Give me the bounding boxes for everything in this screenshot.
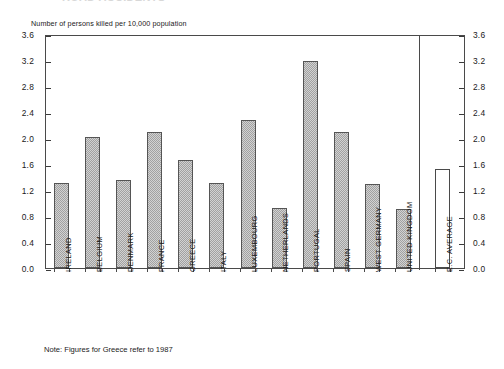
y-axis-label-right: 3.2: [473, 56, 504, 66]
y-axis-label-right: 0.0: [473, 264, 504, 274]
y-axis-label-left: 1.2: [0, 186, 34, 196]
y-axis-label-left: 0.8: [0, 212, 34, 222]
x-axis-label-greece: GREECE: [188, 238, 197, 272]
y-axis-label-right: 1.6: [473, 160, 504, 170]
x-axis-label-denmark: DENMARK: [126, 232, 135, 272]
y-axis-tick-left: [46, 270, 51, 271]
y-axis-label-right: 1.2: [473, 186, 504, 196]
cut-off-title-strip: ROAD ACCIDENTS: [0, 0, 504, 10]
y-axis-label-right: 0.4: [473, 238, 504, 248]
x-axis-tick: [271, 268, 272, 272]
x-axis-label-france: FRANCE: [157, 239, 166, 272]
y-axis-tick-left: [46, 114, 51, 115]
x-axis-tick: [302, 268, 303, 272]
y-axis-tick-right: [459, 166, 464, 167]
x-axis-label-portugal: PORTUGAL: [312, 228, 321, 272]
y-axis-label-right: 2.0: [473, 134, 504, 144]
x-axis-label-ireland: IRELAND: [64, 237, 73, 272]
ghost-title-text: ROAD ACCIDENTS: [62, 0, 165, 3]
x-axis-tick: [85, 268, 86, 272]
y-axis-label-right: 0.8: [473, 212, 504, 222]
y-axis-label-right: 2.8: [473, 82, 504, 92]
x-axis-label-west-germany: WEST GERMANY: [374, 207, 383, 272]
x-axis-tick: [395, 268, 396, 272]
x-axis-tick: [147, 268, 148, 272]
x-axis-label-luxembourg: LUXEMBOURG: [250, 215, 259, 272]
y-axis-label-left: 0.0: [0, 264, 34, 274]
y-axis-tick-left: [46, 140, 51, 141]
y-axis-tick-right: [459, 192, 464, 193]
x-axis-tick: [333, 268, 334, 272]
y-axis-tick-left: [46, 36, 51, 37]
x-axis-tick: [240, 268, 241, 272]
y-axis-label-left: 2.4: [0, 108, 34, 118]
x-axis-label-belgium: BELGIUM: [95, 236, 104, 272]
x-axis-label-spain: SPAIN: [343, 248, 352, 272]
x-axis-tick: [178, 268, 179, 272]
ec-average-panel-divider: [419, 36, 420, 270]
chart-note: Note: Figures for Greece refer to 1987: [44, 345, 173, 354]
y-axis-label-left: 1.6: [0, 160, 34, 170]
y-axis-label-left: 3.2: [0, 56, 34, 66]
y-axis-label-left: 3.6: [0, 30, 34, 40]
y-axis-tick-left: [46, 192, 51, 193]
x-axis-tick: [364, 268, 365, 272]
y-axis-tick-left: [46, 88, 51, 89]
y-axis-tick-right: [459, 114, 464, 115]
x-axis-label-italy: ITALY: [219, 251, 228, 272]
y-axis-tick-right: [459, 88, 464, 89]
x-axis-label-e-c-average: E.C. AVERAGE: [445, 216, 454, 272]
x-axis-tick: [435, 268, 436, 272]
y-axis-tick-right: [459, 244, 464, 245]
y-axis-caption: Number of persons killed per 10,000 popu…: [31, 19, 187, 28]
y-axis-tick-left: [46, 62, 51, 63]
y-axis-tick-left: [46, 218, 51, 219]
x-axis-tick: [209, 268, 210, 272]
y-axis-label-left: 2.0: [0, 134, 34, 144]
y-axis-label-left: 2.8: [0, 82, 34, 92]
y-axis-tick-left: [46, 166, 51, 167]
x-axis-tick: [54, 268, 55, 272]
y-axis-tick-left: [46, 244, 51, 245]
y-axis-tick-right: [459, 140, 464, 141]
y-axis-label-left: 0.4: [0, 238, 34, 248]
y-axis-tick-right: [459, 62, 464, 63]
y-axis-tick-right: [459, 36, 464, 37]
x-axis-label-netherlands: NETHERLANDS: [281, 213, 290, 272]
y-axis-tick-right: [459, 270, 464, 271]
y-axis-label-right: 3.6: [473, 30, 504, 40]
y-axis-label-right: 2.4: [473, 108, 504, 118]
y-axis-tick-right: [459, 218, 464, 219]
x-axis-tick: [116, 268, 117, 272]
x-axis-label-united-kingdom: UNITED KINGDOM: [405, 202, 414, 272]
